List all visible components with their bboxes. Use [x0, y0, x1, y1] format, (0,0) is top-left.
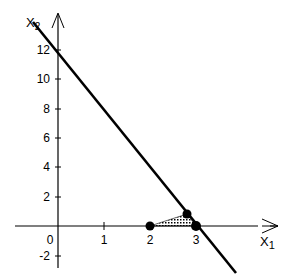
svg-text:8: 8 [43, 102, 50, 116]
x-tick-labels: 0 1 2 3 [47, 233, 200, 247]
svg-text:10: 10 [37, 72, 51, 86]
point-2-0 [146, 222, 155, 231]
y-axis-label: X2 [26, 15, 41, 32]
point-2.8-0.8 [183, 210, 192, 219]
svg-text:2: 2 [147, 233, 154, 247]
svg-text:12: 12 [37, 43, 51, 57]
x-axis-label: X1 [260, 234, 275, 251]
svg-text:3: 3 [193, 233, 200, 247]
svg-text:4: 4 [43, 160, 50, 174]
svg-text:0: 0 [47, 233, 54, 247]
point-3-0 [191, 221, 201, 231]
svg-text:1: 1 [101, 233, 108, 247]
y-tick-labels: 12 10 8 6 4 2 -2 [37, 43, 51, 263]
svg-text:2: 2 [43, 190, 50, 204]
chart: 12 10 8 6 4 2 -2 0 1 2 3 X2 X1 [0, 0, 289, 277]
svg-text:-2: -2 [39, 249, 50, 263]
constraint-line [33, 22, 236, 273]
svg-text:6: 6 [43, 131, 50, 145]
